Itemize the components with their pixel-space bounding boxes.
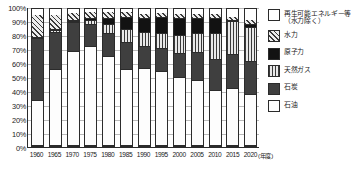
legend-item-oil: 石油 bbox=[268, 100, 356, 112]
bar-segment-coal bbox=[139, 47, 150, 70]
bar-segment-coal bbox=[227, 55, 238, 89]
bar-segment-hydro bbox=[85, 12, 96, 19]
bar-segment-hydro bbox=[50, 15, 61, 30]
legend-label-coal: 石炭 bbox=[284, 83, 297, 91]
legend-label-gas: 天然ガス bbox=[284, 65, 311, 73]
y-axis-tick: 10% bbox=[0, 131, 26, 138]
bar-1985 bbox=[120, 8, 133, 147]
bar-segment-hydro bbox=[68, 13, 79, 21]
bar-segment-coal bbox=[192, 53, 203, 81]
legend-swatch-oil bbox=[268, 100, 280, 112]
x-axis-tick: 1975 bbox=[82, 150, 97, 162]
bar-segment-nuclear bbox=[192, 19, 203, 34]
bar-2010 bbox=[209, 8, 222, 147]
bar-1990 bbox=[138, 8, 151, 147]
y-axis-tick: 60% bbox=[0, 61, 26, 68]
x-axis-tick: 2005 bbox=[189, 150, 204, 162]
legend-swatch-renew bbox=[268, 9, 280, 21]
y-axis-tick: 50% bbox=[0, 75, 26, 82]
x-axis-tick: 2010 bbox=[207, 150, 222, 162]
bar-segment-coal bbox=[210, 60, 221, 91]
bar-segment-coal bbox=[174, 54, 185, 78]
bar-1975 bbox=[84, 8, 97, 147]
bar-segment-coal bbox=[50, 33, 61, 70]
bar-segment-oil bbox=[174, 78, 185, 146]
x-axis-tick: 1985 bbox=[118, 150, 133, 162]
bar-segment-oil bbox=[103, 57, 114, 146]
legend-item-gas: 天然ガス bbox=[268, 65, 356, 77]
bar-segment-coal bbox=[68, 23, 79, 52]
legend-label-oil: 石油 bbox=[284, 100, 297, 108]
energy-composition-chart: 100%90%80%70%60%50%40%30%20%10%0% 196019… bbox=[0, 0, 356, 170]
bar-1965 bbox=[49, 8, 62, 147]
bar-segment-nuclear bbox=[139, 19, 150, 33]
bar-segment-oil bbox=[32, 101, 43, 146]
x-axis-unit-label: (年度) bbox=[258, 151, 273, 160]
y-axis-tick: 0% bbox=[0, 145, 26, 152]
bar-segment-gas bbox=[210, 34, 221, 59]
bar-segment-coal bbox=[121, 43, 132, 70]
bar-segment-oil bbox=[85, 47, 96, 146]
x-axis-tick: 1965 bbox=[47, 150, 62, 162]
legend-label-nuclear: 原子力 bbox=[284, 48, 304, 56]
bar-segment-renew bbox=[227, 9, 238, 17]
bar-segment-gas bbox=[174, 36, 185, 54]
bar-1980 bbox=[102, 8, 115, 147]
bar-segment-gas bbox=[192, 34, 203, 53]
y-axis-tick: 90% bbox=[0, 19, 26, 26]
bar-segment-oil bbox=[156, 72, 167, 146]
legend-label-renew: 再生可能エネルギー等 （水力除く） bbox=[284, 9, 351, 25]
bar-segment-nuclear bbox=[210, 19, 221, 35]
bar-1995 bbox=[155, 8, 168, 147]
bar-segment-coal bbox=[103, 34, 114, 57]
bar-segment-nuclear bbox=[121, 18, 132, 30]
bar-segment-oil bbox=[50, 70, 61, 146]
x-axis-tick: 1990 bbox=[136, 150, 151, 162]
bar-segment-oil bbox=[121, 70, 132, 146]
legend-swatch-coal bbox=[268, 83, 280, 95]
bar-segment-coal bbox=[85, 25, 96, 48]
bar-segment-coal bbox=[245, 62, 256, 96]
bar-segment-oil bbox=[192, 81, 203, 146]
legend-swatch-nuclear bbox=[268, 48, 280, 60]
y-axis-tick: 70% bbox=[0, 47, 26, 54]
bar-segment-oil bbox=[245, 95, 256, 146]
x-axis-tick: 1995 bbox=[154, 150, 169, 162]
bar-1970 bbox=[67, 8, 80, 147]
bar-2005 bbox=[191, 8, 204, 147]
bar-segment-gas bbox=[227, 22, 238, 54]
bar-segment-gas bbox=[121, 30, 132, 43]
x-axis: 1960196519701975198019851990199520002005… bbox=[27, 150, 259, 162]
x-axis-tick: 2000 bbox=[172, 150, 187, 162]
legend-item-hydro: 水力 bbox=[268, 30, 356, 42]
bar-segment-gas bbox=[156, 34, 167, 49]
legend-item-nuclear: 原子力 bbox=[268, 48, 356, 60]
bar-segment-gas bbox=[245, 28, 256, 62]
y-axis-tick: 80% bbox=[0, 33, 26, 40]
bar-2000 bbox=[173, 8, 186, 147]
legend-swatch-gas bbox=[268, 65, 280, 77]
bar-group bbox=[28, 8, 259, 147]
bar-segment-oil bbox=[210, 91, 221, 146]
y-axis-tick: 100% bbox=[0, 5, 26, 12]
bar-segment-nuclear bbox=[174, 19, 185, 37]
bar-segment-oil bbox=[139, 69, 150, 146]
x-axis-tick: 2015 bbox=[225, 150, 240, 162]
x-axis-tick: 1970 bbox=[65, 150, 80, 162]
bar-segment-coal bbox=[32, 39, 43, 101]
bar-segment-gas bbox=[139, 33, 150, 47]
legend-label-hydro: 水力 bbox=[284, 30, 297, 38]
legend: 再生可能エネルギー等 （水力除く）水力原子力天然ガス石炭石油 bbox=[268, 9, 356, 118]
y-axis-tick: 20% bbox=[0, 117, 26, 124]
bar-segment-oil bbox=[68, 52, 79, 146]
bar-segment-coal bbox=[156, 49, 167, 72]
legend-swatch-hydro bbox=[268, 30, 280, 42]
y-axis-tick: 40% bbox=[0, 89, 26, 96]
y-axis: 100%90%80%70%60%50%40%30%20%10%0% bbox=[0, 8, 26, 148]
bar-segment-hydro bbox=[32, 15, 43, 38]
x-axis-tick: 2020 bbox=[243, 150, 258, 162]
plot-area bbox=[27, 8, 259, 148]
bar-segment-gas bbox=[103, 25, 114, 33]
legend-item-renew: 再生可能エネルギー等 （水力除く） bbox=[268, 9, 356, 25]
x-axis-tick: 1960 bbox=[29, 150, 44, 162]
